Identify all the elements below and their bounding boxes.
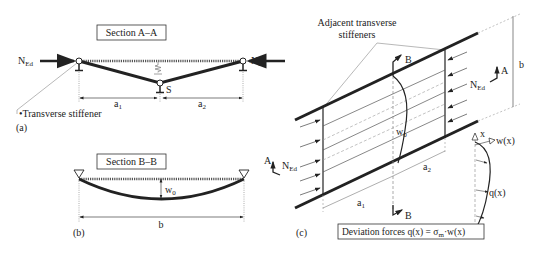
support-left-icon — [75, 64, 83, 71]
support-left-icon — [74, 170, 84, 178]
deviation-curve — [475, 142, 490, 230]
section-a-left-label: A — [264, 155, 272, 166]
panel-a-label: (a) — [16, 122, 27, 134]
panel-c: Adjacent transverse stiffeners w0 B B — [264, 14, 524, 239]
plate-fibres — [323, 70, 445, 172]
width-b: b — [159, 219, 164, 230]
section-a-marker-right-icon — [490, 67, 497, 82]
w-axis-arrow-icon — [489, 138, 495, 144]
section-aa-title: Section A–A — [106, 27, 158, 38]
span-a1: a1 — [114, 98, 122, 111]
compression-arrows-right — [448, 52, 467, 122]
hinge-mid-icon — [157, 80, 163, 86]
support-right-icon — [239, 170, 249, 178]
panel-a: Section A–A S NEd NEd — [16, 25, 285, 134]
deflection-label: w(x) — [496, 135, 515, 147]
stiffener-leader-line — [17, 63, 77, 110]
stiffener-callout-line1: Adjacent transverse — [317, 17, 397, 28]
panel-c-label: (c) — [296, 227, 307, 239]
span-a1: a1 — [357, 197, 365, 210]
imperfection-shape — [393, 76, 407, 163]
support-label: S — [166, 84, 172, 95]
spring-icon — [155, 62, 161, 73]
span-a2: a2 — [423, 161, 431, 174]
section-b-marker-bottom-icon — [393, 205, 402, 215]
hinge-right-icon — [240, 58, 246, 64]
force-label-right: NEd — [470, 79, 486, 92]
force-label-left: NEd — [282, 160, 298, 173]
width-b: b — [519, 59, 524, 70]
deformed-plate — [79, 179, 244, 199]
stiffener-note: •Transverse stiffener — [19, 108, 102, 119]
callout-leader-1 — [323, 43, 377, 108]
section-b-top-label: B — [405, 54, 412, 65]
force-label-right: NEd — [251, 55, 267, 68]
stiffener-callout-line2: stiffeners — [338, 29, 375, 40]
span-a2: a2 — [198, 98, 206, 111]
section-a-marker-left-icon — [273, 162, 280, 175]
section-a-right-label: A — [501, 65, 509, 76]
axis-x-label: x — [480, 128, 485, 139]
load-label: q(x) — [489, 187, 506, 199]
callout-leader-2 — [377, 43, 445, 50]
section-bb-title: Section B–B — [106, 156, 157, 167]
support-right-icon — [239, 64, 247, 71]
section-b-bottom-label: B — [405, 210, 412, 221]
compression-arrows-left — [300, 120, 320, 195]
panel-b-label: (b) — [73, 227, 85, 239]
panel-b: Section B–B w0 b (b) — [73, 154, 249, 239]
x-axis-arrow-icon — [472, 133, 478, 140]
support-mid-icon — [156, 86, 164, 93]
force-label-left: NEd — [18, 55, 34, 68]
imperfection-w0: w0 — [165, 184, 176, 197]
diagram-canvas: Section A–A S NEd NEd — [0, 0, 535, 254]
